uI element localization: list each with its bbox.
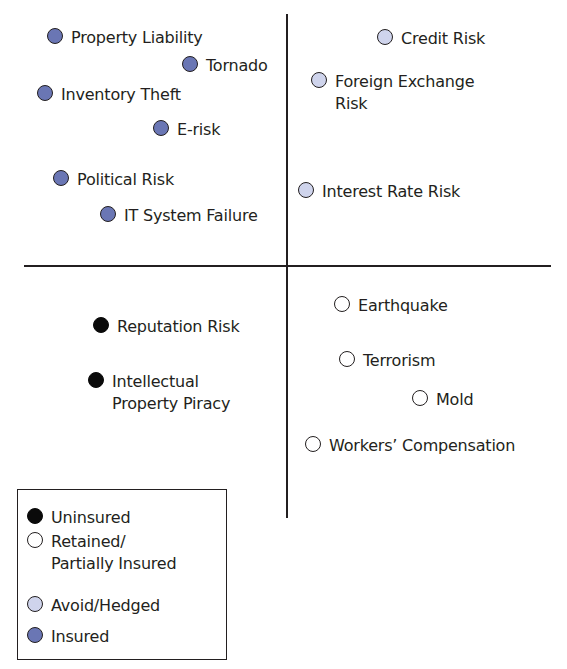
risk-item: Interest Rate Risk <box>298 181 460 203</box>
risk-label: Insured <box>51 626 109 648</box>
risk-label: Terrorism <box>363 350 435 372</box>
risk-item: Workers’ Compensation <box>305 435 515 457</box>
risk-label: Retained/ Partially Insured <box>51 531 176 575</box>
retained-marker-icon <box>412 390 428 406</box>
avoid_hedged-marker-icon <box>311 72 327 88</box>
retained-marker-icon <box>305 436 321 452</box>
risk-item: Reputation Risk <box>93 316 240 338</box>
risk-item: E-risk <box>153 119 220 141</box>
avoid_hedged-marker-icon <box>298 182 314 198</box>
avoid_hedged-marker-icon <box>27 596 43 612</box>
risk-label: Earthquake <box>358 295 448 317</box>
insured-marker-icon <box>182 56 198 72</box>
insured-marker-icon <box>37 85 53 101</box>
insured-marker-icon <box>47 28 63 44</box>
risk-label: Reputation Risk <box>117 316 240 338</box>
risk-label: Political Risk <box>77 169 174 191</box>
legend: UninsuredRetained/ Partially InsuredAvoi… <box>17 489 227 660</box>
risk-item: Mold <box>412 389 473 411</box>
risk-label: Workers’ Compensation <box>329 435 515 457</box>
risk-label: Credit Risk <box>401 28 485 50</box>
risk-item: Inventory Theft <box>37 84 181 106</box>
insured-marker-icon <box>153 120 169 136</box>
risk-label: Foreign Exchange Risk <box>335 71 474 115</box>
risk-item: Intellectual Property Piracy <box>88 371 230 415</box>
risk-label: Tornado <box>206 55 268 77</box>
risk-label: IT System Failure <box>124 205 258 227</box>
insured-marker-icon <box>27 627 43 643</box>
risk-label: Mold <box>436 389 473 411</box>
risk-label: E-risk <box>177 119 220 141</box>
insured-marker-icon <box>100 206 116 222</box>
risk-item: Property Liability <box>47 27 203 49</box>
legend-item-avoid_hedged: Avoid/Hedged <box>27 595 160 617</box>
risk-label: Uninsured <box>51 507 130 529</box>
risk-label: Property Liability <box>71 27 203 49</box>
risk-label: Intellectual Property Piracy <box>112 371 230 415</box>
risk-item: IT System Failure <box>100 205 258 227</box>
risk-label: Avoid/Hedged <box>51 595 160 617</box>
avoid_hedged-marker-icon <box>377 29 393 45</box>
uninsured-marker-icon <box>93 317 109 333</box>
risk-item: Credit Risk <box>377 28 485 50</box>
risk-item: Foreign Exchange Risk <box>311 71 474 115</box>
legend-item-retained: Retained/ Partially Insured <box>27 531 176 575</box>
legend-item-insured: Insured <box>27 626 109 648</box>
legend-item-uninsured: Uninsured <box>27 507 130 529</box>
retained-marker-icon <box>334 296 350 312</box>
risk-item: Earthquake <box>334 295 448 317</box>
uninsured-marker-icon <box>88 372 104 388</box>
risk-item: Political Risk <box>53 169 174 191</box>
risk-item: Terrorism <box>339 350 435 372</box>
risk-label: Interest Rate Risk <box>322 181 460 203</box>
risk-label: Inventory Theft <box>61 84 181 106</box>
insured-marker-icon <box>53 170 69 186</box>
retained-marker-icon <box>339 351 355 367</box>
retained-marker-icon <box>27 532 43 548</box>
uninsured-marker-icon <box>27 508 43 524</box>
horizontal-axis <box>24 265 551 267</box>
risk-item: Tornado <box>182 55 268 77</box>
